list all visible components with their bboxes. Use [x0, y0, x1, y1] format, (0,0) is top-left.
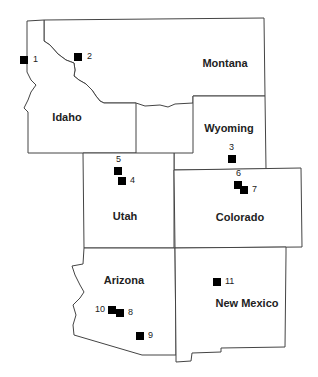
site-marker-7 — [240, 186, 248, 194]
site-number-1: 1 — [33, 54, 38, 64]
state-label-montana: Montana — [202, 57, 247, 69]
state-label-idaho: Idaho — [52, 111, 81, 123]
site-number-10: 10 — [95, 304, 105, 314]
state-label-colorado: Colorado — [216, 211, 264, 223]
site-number-6: 6 — [236, 168, 241, 178]
site-marker-4 — [118, 177, 126, 185]
state-label-new-mexico: New Mexico — [216, 297, 279, 309]
state-colorado — [174, 168, 302, 248]
site-marker-9 — [136, 332, 144, 340]
site-marker-8 — [116, 309, 124, 317]
state-label-utah: Utah — [113, 210, 137, 222]
site-number-8: 8 — [128, 307, 133, 317]
state-utah — [83, 153, 174, 248]
site-marker-1 — [20, 56, 28, 64]
site-number-3: 3 — [229, 142, 234, 152]
site-number-7: 7 — [252, 184, 257, 194]
site-marker-11 — [213, 278, 221, 286]
state-label-arizona: Arizona — [104, 274, 144, 286]
site-marker-3 — [228, 155, 236, 163]
site-number-9: 9 — [148, 330, 153, 340]
site-marker-5 — [114, 167, 122, 175]
site-number-11: 11 — [225, 276, 234, 286]
site-marker-2 — [74, 53, 82, 61]
state-arizona — [72, 248, 176, 355]
map-canvas — [0, 0, 318, 377]
state-label-wyoming: Wyoming — [204, 122, 253, 134]
site-marker-10 — [108, 306, 116, 314]
site-number-2: 2 — [87, 51, 92, 61]
site-number-4: 4 — [130, 175, 135, 185]
site-number-5: 5 — [116, 154, 121, 164]
